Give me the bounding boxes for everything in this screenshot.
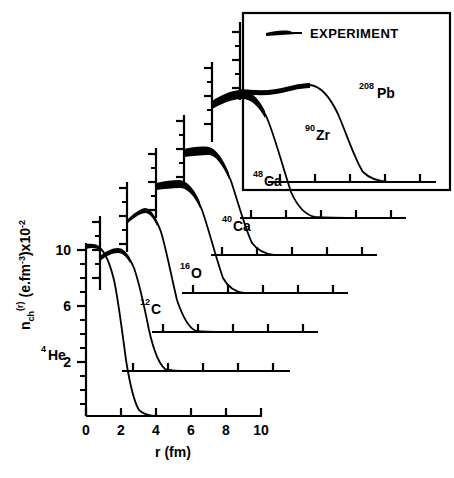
curve-208pb	[240, 83, 436, 182]
y-tick-10: 10	[55, 242, 71, 258]
y-title-unit-close: )x10	[17, 228, 33, 256]
curve-16o	[127, 208, 226, 332]
y-title-sup: (r)	[15, 301, 25, 311]
label-12c-mass: 12	[140, 297, 150, 307]
curve-12c	[100, 248, 190, 371]
experiment-band-12c	[100, 248, 130, 263]
y-title-unit-sup2: -2	[17, 220, 27, 228]
legend-box: EXPERIMENT	[243, 13, 450, 190]
curve-label-48ca: 48 Ca	[253, 169, 282, 189]
label-16o-symbol: O	[191, 265, 202, 281]
label-4he-symbol: He	[48, 347, 66, 363]
x-axis-title: r (fm)	[155, 444, 191, 460]
label-12c-symbol: C	[151, 301, 161, 317]
label-48ca-symbol: Ca	[264, 173, 282, 189]
legend-swatch-experiment-band	[266, 31, 296, 36]
x-tick-10: 10	[253, 422, 269, 438]
experiment-band-208pb	[240, 83, 310, 95]
chart-canvas: 10 6 2 0 2 4 6 8 10 r (fm) nch(r) (e.fm-…	[0, 0, 454, 478]
y-title-unit-open: (e.fm	[17, 264, 33, 297]
figure-charge-density: 10 6 2 0 2 4 6 8 10 r (fm) nch(r) (e.fm-…	[0, 0, 454, 478]
label-48ca-mass: 48	[253, 169, 263, 179]
main-y-axis	[77, 243, 86, 416]
x-tick-6: 6	[187, 422, 195, 438]
offset-axis-208pb	[232, 22, 436, 182]
y-title-sub: ch	[26, 311, 36, 322]
legend-label-experiment: EXPERIMENT	[310, 26, 399, 41]
label-90zr-symbol: Zr	[316, 127, 331, 143]
svg-text:nch(r) (e.fm-3)x10-2: nch(r) (e.fm-3)x10-2	[15, 220, 36, 330]
curve-label-4he: 4 He	[41, 344, 66, 363]
y-axis-title: nch(r) (e.fm-3)x10-2	[15, 220, 36, 330]
x-tick-0: 0	[82, 422, 90, 438]
experiment-band-48ca	[184, 147, 229, 179]
curve-4he	[86, 244, 157, 416]
label-208pb-symbol: Pb	[377, 85, 395, 101]
curve-label-12c: 12 C	[140, 297, 161, 317]
curve-label-90zr: 90 Zr	[305, 123, 331, 143]
curve-label-208pb: 208 Pb	[359, 81, 395, 101]
offset-axis-16o	[119, 182, 318, 332]
main-x-axis	[86, 408, 262, 416]
x-tick-4: 4	[152, 422, 160, 438]
y-tick-6: 6	[63, 298, 71, 314]
label-16o-mass: 16	[180, 261, 190, 271]
label-40ca-mass: 40	[222, 214, 232, 224]
curve-label-16o: 16 O	[180, 261, 202, 281]
y-title-n: n	[17, 321, 33, 330]
curve-48ca	[184, 147, 318, 255]
experiment-band-40ca	[156, 180, 200, 208]
curve-40ca	[156, 180, 282, 293]
label-90zr-mass: 90	[305, 123, 315, 133]
label-40ca-symbol: Ca	[233, 218, 251, 234]
x-tick-2: 2	[117, 422, 125, 438]
label-208pb-mass: 208	[359, 81, 374, 91]
curve-90zr	[212, 90, 364, 218]
x-tick-8: 8	[222, 422, 230, 438]
label-4he-mass: 4	[41, 344, 46, 354]
y-title-unit-sup: -3	[17, 256, 27, 264]
